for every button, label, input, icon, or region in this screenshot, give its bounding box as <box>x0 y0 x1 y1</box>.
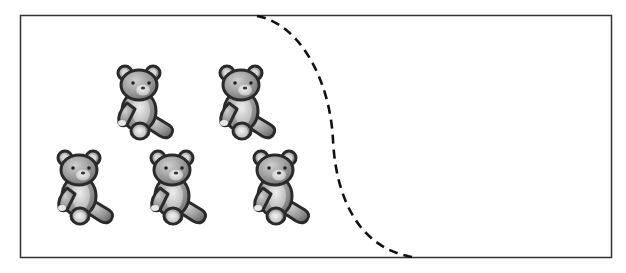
diagram-canvas <box>0 0 626 273</box>
